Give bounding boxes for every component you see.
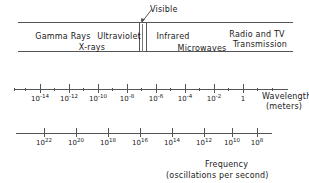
axis-tick-label: 1020: [68, 140, 84, 147]
axis-tick-label: 1016: [132, 140, 148, 147]
axis-minor-tick: [141, 88, 142, 91]
axis-minor-tick: [83, 88, 84, 91]
visible-band-label: Visible: [150, 6, 178, 14]
spectrum-band-label: Ultraviolet: [97, 33, 141, 41]
axis-tick-label: 1010: [224, 140, 240, 147]
axis-major-tick: [140, 128, 141, 137]
axis-tick-label: 10-6: [149, 96, 163, 103]
axis-major-tick: [232, 128, 233, 137]
axis-tick-label: 108: [251, 140, 263, 147]
axis-tick-label: 10-14: [31, 96, 49, 103]
spectrum-band-label: Radio and TV: [229, 31, 284, 39]
axis-tick-label: 10-12: [60, 96, 78, 103]
spectrum-band-label: X-rays: [79, 44, 105, 52]
axis-tick-label: 1014: [164, 140, 180, 147]
axis-minor-tick: [170, 88, 171, 91]
axis-major-tick: [257, 128, 258, 137]
axis-minor-tick: [112, 88, 113, 91]
axis-minor-tick: [199, 88, 200, 91]
wavelength-axis-title-line1: Wavelength: [262, 93, 309, 101]
axis-major-tick: [185, 84, 186, 93]
axis-major-tick: [69, 84, 70, 93]
axis-minor-tick: [228, 88, 229, 91]
visible-band-right-divider: [146, 22, 147, 52]
wavelength-axis-title-line2: (meters): [266, 103, 302, 111]
axis-tick-label: 1022: [36, 140, 52, 147]
spectrum-band-top-rule: [18, 22, 293, 23]
axis-tick-label: 10-2: [207, 96, 221, 103]
visible-leader-line: [141, 9, 153, 23]
axis-major-tick: [76, 128, 77, 137]
spectrum-band-label: Gamma Rays: [35, 33, 90, 41]
axis-major-tick: [172, 128, 173, 137]
spectrum-band-label: Microwaves: [178, 45, 227, 53]
frequency-axis-title-line2: (oscillations per second): [166, 172, 269, 180]
axis-tick-label: 10-10: [89, 96, 107, 103]
axis-tick-label: 10-8: [120, 96, 134, 103]
frequency-axis-line: [16, 133, 272, 134]
axis-major-tick: [108, 128, 109, 137]
spectrum-band-bottom-rule: [18, 51, 293, 52]
axis-minor-tick: [257, 88, 258, 91]
axis-major-tick: [98, 84, 99, 93]
axis-tick-label: 10-4: [178, 96, 192, 103]
axis-minor-tick: [14, 88, 15, 91]
axis-major-tick: [204, 128, 205, 137]
spectrum-band-label: Infrared: [156, 33, 189, 41]
axis-major-tick: [156, 84, 157, 93]
axis-minor-tick: [54, 88, 55, 91]
axis-tick-label: 1012: [196, 140, 212, 147]
axis-minor-tick: [25, 88, 26, 91]
axis-major-tick: [40, 84, 41, 93]
visible-band-fill: [142, 24, 143, 52]
spectrum-band-label: Transmission: [233, 41, 287, 49]
axis-major-tick: [127, 84, 128, 93]
axis-major-tick: [243, 84, 244, 93]
axis-tick-label: 1018: [100, 140, 116, 147]
axis-tick-label: 1: [241, 96, 245, 103]
axis-minor-tick: [272, 88, 273, 91]
electromagnetic-spectrum-figure: Visible Gamma RaysUltravioletX-raysInfra…: [0, 0, 309, 183]
axis-major-tick: [214, 84, 215, 93]
wavelength-axis-line: [14, 89, 288, 90]
axis-major-tick: [44, 128, 45, 137]
frequency-axis-title-line1: Frequency: [205, 161, 248, 169]
